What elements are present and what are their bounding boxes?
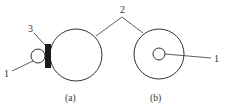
label-2: 2 [120, 4, 125, 15]
black-block [45, 44, 51, 68]
large-circle-a [50, 29, 102, 81]
label-1b: 1 [214, 53, 219, 64]
diagram-svg: 3 1 (a) 2 1 (b) [0, 0, 225, 105]
shared-label-2: 2 [96, 4, 143, 36]
diagram-canvas: 3 1 (a) 2 1 (b) [0, 0, 225, 105]
subfigure-b: 1 (b) [134, 29, 219, 104]
label-1a: 1 [4, 68, 9, 79]
caption-b: (b) [150, 93, 161, 104]
leader-line-3 [34, 33, 45, 45]
label-3: 3 [28, 23, 33, 34]
subfigure-a: 3 1 (a) [4, 23, 102, 104]
large-circle-b [134, 29, 184, 79]
leader-line-2 [96, 17, 143, 36]
small-circle-b [153, 48, 165, 60]
small-circle-a [31, 49, 45, 63]
caption-a: (a) [65, 93, 76, 104]
leader-line-1b [165, 54, 211, 58]
leader-line-1a [12, 61, 33, 71]
